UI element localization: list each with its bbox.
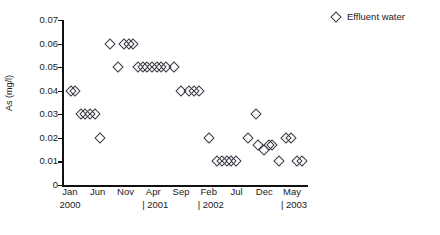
data-point-marker <box>112 61 123 72</box>
data-point-marker <box>242 132 253 143</box>
x-tick-year-label: | 2002 <box>198 199 224 210</box>
x-axis-labels: Jan2000JunNovApr| 2001SepFeb| 2002JulDec… <box>0 186 340 230</box>
x-tick-month-label: Jul <box>230 186 242 197</box>
y-tick-mark <box>58 20 62 21</box>
y-axis-title: As (mg/l) <box>4 58 14 128</box>
y-tick-mark <box>58 91 62 92</box>
x-tick-month-label: Apr <box>146 186 161 197</box>
x-tick-month-label: Dec <box>256 186 273 197</box>
x-tick-year-label: 2000 <box>59 199 80 210</box>
x-tick-year-label: | 2001 <box>142 199 168 210</box>
x-tick-month-label: May <box>283 186 301 197</box>
x-tick-month-label: Sep <box>173 186 190 197</box>
data-point-marker <box>95 132 106 143</box>
chart-legend: Effluent water <box>332 12 405 22</box>
data-point-marker <box>250 109 261 120</box>
legend-entry-label: Effluent water <box>347 12 405 22</box>
x-tick-month-label: Jun <box>90 186 105 197</box>
y-tick-label: 0.02 <box>18 133 58 143</box>
y-tick-label: 0.04 <box>18 86 58 96</box>
y-tick-label: 0.06 <box>18 39 58 49</box>
x-tick-year-label: | 2003 <box>281 199 307 210</box>
x-tick-month-label: Jan <box>62 186 77 197</box>
y-axis-line <box>62 20 64 185</box>
arsenic-scatter-chart: As (mg/l) 0.070.060.050.040.030.020.010 … <box>0 0 440 235</box>
x-tick-month-label: Nov <box>117 186 134 197</box>
open-diamond-icon <box>330 11 341 22</box>
data-point-marker <box>204 132 215 143</box>
y-tick-label: 0.03 <box>18 109 58 119</box>
y-tick-mark <box>58 114 62 115</box>
y-tick-mark <box>58 138 62 139</box>
y-tick-mark <box>58 44 62 45</box>
data-point-marker <box>168 61 179 72</box>
y-tick-mark <box>58 67 62 68</box>
x-tick-month-label: Feb <box>201 186 217 197</box>
y-tick-label: 0.07 <box>18 15 58 25</box>
y-tick-label: 0.01 <box>18 156 58 166</box>
data-point-marker <box>104 38 115 49</box>
y-tick-mark <box>58 161 62 162</box>
y-tick-label: 0.05 <box>18 62 58 72</box>
data-point-marker <box>274 156 285 167</box>
plot-area <box>62 20 308 185</box>
